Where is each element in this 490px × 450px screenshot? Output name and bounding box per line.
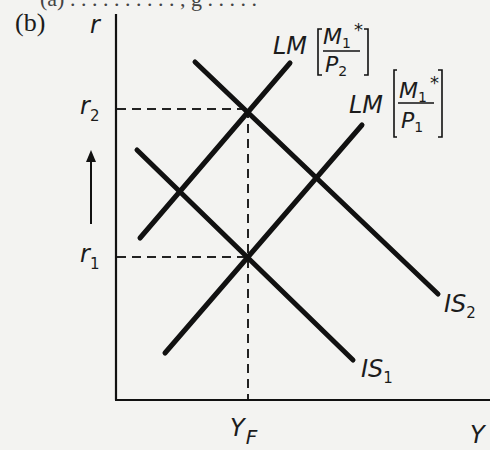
svg-text:M1: M1 [323, 24, 351, 51]
svg-text:P1: P1 [401, 108, 423, 135]
is-lm-diagram: (a) . . . . . . . . . . , g . . . . . (b… [0, 0, 490, 450]
lm1-curve [165, 125, 362, 353]
svg-text:LM: LM [273, 32, 307, 60]
arrow-up-icon [86, 150, 96, 224]
x-axis-label: Y [470, 421, 487, 449]
is2-label: IS2 [444, 290, 476, 322]
svg-text:*: * [354, 19, 363, 40]
svg-text:P2: P2 [325, 52, 347, 79]
is1-label: IS1 [361, 355, 393, 387]
svg-text:M1: M1 [399, 78, 427, 105]
svg-text:LM: LM [349, 91, 383, 119]
r2-label: r2 [80, 92, 99, 125]
lm2-curve [140, 63, 290, 238]
panel-label: (b) [15, 8, 45, 37]
y-axis-label: r [90, 11, 102, 39]
yf-label: YF [230, 414, 258, 449]
r1-label: r1 [80, 240, 99, 273]
clipped-caption: (a) . . . . . . . . . . , g . . . . . [40, 0, 257, 11]
svg-text:*: * [430, 72, 439, 93]
